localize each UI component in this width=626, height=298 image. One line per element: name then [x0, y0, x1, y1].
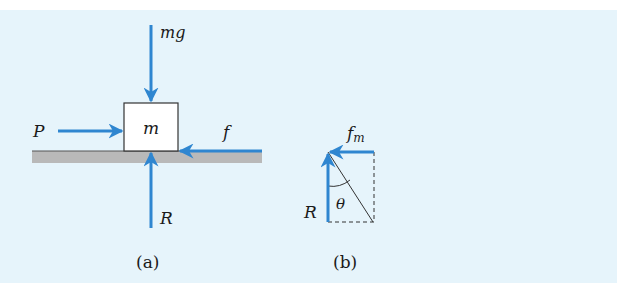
caption-b: (b)	[333, 252, 357, 272]
normal-label: R	[159, 208, 173, 228]
block-mass-label: m	[143, 118, 159, 138]
figure-a: m mg P f R (a)	[32, 23, 262, 272]
max-friction-label: fm	[345, 123, 365, 145]
figure-b: θ R fm (b)	[303, 123, 374, 272]
ground-surface	[32, 151, 262, 163]
weight-label: mg	[160, 23, 185, 42]
angle-label: θ	[336, 195, 345, 213]
force-diagram: m mg P f R (a) θ R fm (b)	[0, 0, 626, 298]
normal-label-b: R	[303, 202, 317, 222]
caption-a: (a)	[136, 252, 159, 272]
max-friction-subscript: m	[353, 131, 364, 145]
resultant-line	[328, 152, 373, 222]
push-label: P	[32, 121, 45, 141]
friction-label: f	[221, 122, 232, 142]
